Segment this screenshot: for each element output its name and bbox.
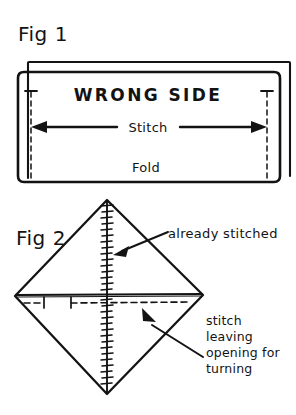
figure-1-label: Fig 1 bbox=[18, 22, 68, 46]
figure-2-group: Fig 2 already stitched stitch leaving op… bbox=[15, 200, 281, 394]
dashed-seam-line-icon-opening-right bbox=[71, 302, 190, 303]
illustration-canvas: Fig 1 WRONG SIDE Stitch Fold bbox=[0, 0, 296, 415]
figure-2-label: Fig 2 bbox=[16, 226, 66, 250]
fold-label: Fold bbox=[132, 160, 160, 175]
arrow-left-icon bbox=[31, 121, 47, 133]
already-stitched-annotation: already stitched bbox=[168, 226, 278, 241]
arrow-pointer-icon-opening bbox=[142, 308, 156, 322]
stitch-label: Stitch bbox=[128, 120, 167, 135]
opening-annotation-line-1: stitch bbox=[206, 313, 242, 328]
wrong-side-label: WRONG SIDE bbox=[74, 85, 223, 105]
opening-annotation-line-4: turning bbox=[206, 361, 252, 376]
figure-1-group: Fig 1 WRONG SIDE Stitch Fold bbox=[18, 22, 290, 182]
sewing-diagram: Fig 1 WRONG SIDE Stitch Fold bbox=[0, 0, 296, 415]
arrow-pointer-icon-already-stitched bbox=[113, 246, 129, 257]
arrow-right-icon bbox=[251, 121, 267, 133]
pointer-shaft-already-stitched bbox=[122, 232, 168, 251]
opening-annotation-line-2: leaving bbox=[206, 329, 253, 344]
waist-fold-line bbox=[16, 294, 202, 295]
opening-annotation-line-3: opening for bbox=[206, 345, 281, 360]
